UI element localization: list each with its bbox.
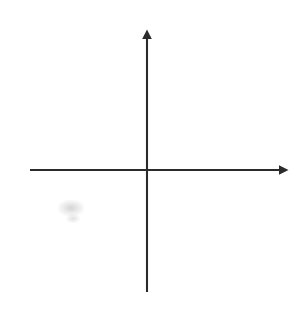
coordinate-plane-figure xyxy=(0,0,306,312)
y-axis-line xyxy=(142,30,152,293)
x-axis-line xyxy=(30,165,289,175)
x-axis-arrowhead xyxy=(279,165,289,175)
coordinate-grid-svg xyxy=(0,0,306,312)
y-axis-arrowhead xyxy=(142,30,152,40)
